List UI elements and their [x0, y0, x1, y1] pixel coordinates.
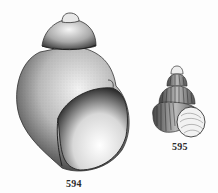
- illustration-plate: 594: [0, 0, 218, 193]
- figure-594-shell: 594: [0, 0, 140, 178]
- figure-595-label: 595: [172, 141, 188, 152]
- small-ribbed-shell-icon: [145, 60, 210, 140]
- figure-595-shell: 595: [145, 60, 210, 160]
- figure-594-label: 594: [66, 178, 82, 189]
- large-shell-icon: [0, 0, 140, 178]
